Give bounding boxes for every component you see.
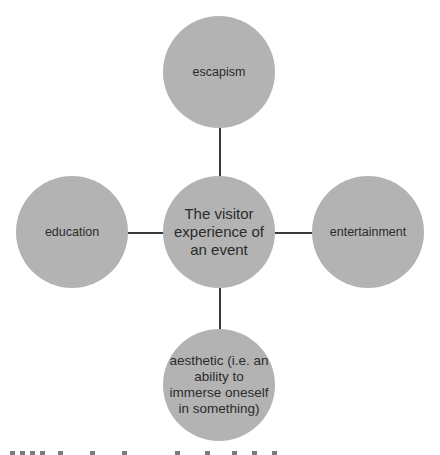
node-escapism: escapism bbox=[163, 16, 275, 128]
connector-left bbox=[128, 232, 164, 234]
node-label: education bbox=[45, 225, 99, 240]
center-label: The visitor experience of an event bbox=[173, 205, 265, 259]
node-label: entertainment bbox=[330, 225, 406, 240]
node-aesthetic: aesthetic (i.e. an ability to immerse on… bbox=[163, 329, 275, 441]
node-entertainment: entertainment bbox=[312, 176, 424, 288]
node-label: escapism bbox=[193, 65, 246, 80]
node-center: The visitor experience of an event bbox=[163, 176, 275, 288]
node-label: aesthetic (i.e. an ability to immerse on… bbox=[167, 353, 271, 417]
clipped-caption bbox=[0, 449, 300, 455]
connector-top bbox=[219, 127, 221, 177]
connector-bottom bbox=[219, 288, 221, 330]
node-education: education bbox=[16, 176, 128, 288]
connector-right bbox=[275, 232, 313, 234]
